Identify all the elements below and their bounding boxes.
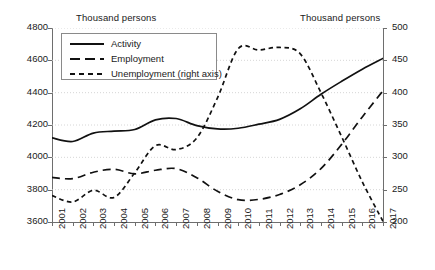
x-axis-tick bbox=[176, 222, 177, 226]
legend-label-activity: Activity bbox=[111, 36, 141, 51]
x-axis-tick bbox=[135, 222, 136, 226]
legend-item-activity: Activity bbox=[62, 36, 218, 51]
x-axis-tick bbox=[197, 222, 198, 226]
left-axis-tick-label: 4200 bbox=[27, 118, 48, 129]
x-axis-tick-label: 2002 bbox=[77, 208, 88, 229]
right-axis-tick-label: 300 bbox=[392, 150, 408, 161]
left-axis-unit-label: Thousand persons bbox=[76, 12, 156, 23]
right-axis-tick bbox=[383, 157, 387, 158]
left-axis-tick bbox=[48, 28, 52, 29]
x-axis-tick bbox=[52, 222, 53, 226]
left-axis-tick bbox=[48, 125, 52, 126]
x-axis-tick-label: 2012 bbox=[284, 208, 295, 229]
x-axis-tick-label: 2017 bbox=[387, 208, 398, 229]
x-axis-tick bbox=[114, 222, 115, 226]
x-axis-tick-label: 2014 bbox=[325, 208, 336, 229]
right-axis-tick-label: 450 bbox=[392, 53, 408, 64]
x-axis-tick bbox=[259, 222, 260, 226]
x-axis-tick bbox=[238, 222, 239, 226]
right-axis-tick bbox=[383, 190, 387, 191]
left-axis-tick-label: 4800 bbox=[27, 21, 48, 32]
right-axis-tick bbox=[383, 93, 387, 94]
x-axis-tick-label: 2016 bbox=[366, 208, 377, 229]
x-axis-tick-label: 2005 bbox=[139, 208, 150, 229]
right-axis-tick bbox=[383, 28, 387, 29]
x-axis-tick bbox=[362, 222, 363, 226]
x-axis-tick bbox=[73, 222, 74, 226]
left-axis-tick-label: 4000 bbox=[27, 150, 48, 161]
x-axis-tick-label: 2003 bbox=[97, 208, 108, 229]
x-axis-tick bbox=[342, 222, 343, 226]
x-axis-tick-label: 2006 bbox=[159, 208, 170, 229]
x-axis-tick bbox=[155, 222, 156, 226]
x-axis-tick-label: 2010 bbox=[242, 208, 253, 229]
left-axis-tick bbox=[48, 157, 52, 158]
x-axis-tick-label: 2001 bbox=[56, 208, 67, 229]
x-axis-tick bbox=[93, 222, 94, 226]
series-line-employment bbox=[52, 91, 383, 201]
legend-label-unemployment: Unemployment (right axis) bbox=[111, 66, 222, 81]
x-axis-tick bbox=[321, 222, 322, 226]
legend-swatch-unemployment bbox=[70, 73, 104, 75]
left-axis-tick-label: 4400 bbox=[27, 86, 48, 97]
legend-item-employment: Employment bbox=[62, 51, 218, 66]
x-axis-tick-label: 2011 bbox=[263, 209, 274, 229]
left-axis-tick-label: 3800 bbox=[27, 183, 48, 194]
x-axis-tick-label: 2015 bbox=[346, 208, 357, 229]
chart-container: Thousand persons Thousand persons Activi… bbox=[0, 0, 435, 270]
right-axis-tick-label: 500 bbox=[392, 21, 408, 32]
left-axis-tick-label: 3600 bbox=[27, 215, 48, 226]
legend-label-employment: Employment bbox=[111, 51, 164, 66]
left-axis-tick bbox=[48, 60, 52, 61]
right-axis-tick-label: 400 bbox=[392, 86, 408, 97]
right-axis-tick bbox=[383, 125, 387, 126]
x-axis-tick-label: 2004 bbox=[118, 208, 129, 229]
x-axis-tick-label: 2008 bbox=[201, 208, 212, 229]
legend-swatch-employment bbox=[70, 58, 104, 60]
x-axis-tick bbox=[280, 222, 281, 226]
legend: Activity Employment Unemployment (right … bbox=[61, 33, 217, 80]
left-axis-tick bbox=[48, 93, 52, 94]
x-axis-tick-label: 2009 bbox=[222, 208, 233, 229]
left-axis-tick bbox=[48, 190, 52, 191]
x-axis-tick-label: 2013 bbox=[304, 208, 315, 229]
right-axis-tick-label: 350 bbox=[392, 118, 408, 129]
x-axis-tick bbox=[218, 222, 219, 226]
x-axis-tick-label: 2007 bbox=[180, 208, 191, 229]
legend-swatch-activity bbox=[70, 43, 104, 45]
left-axis-tick-label: 4600 bbox=[27, 53, 48, 64]
x-axis-tick bbox=[383, 222, 384, 226]
right-axis-unit-label: Thousand persons bbox=[300, 12, 380, 23]
x-axis-tick bbox=[300, 222, 301, 226]
right-axis-tick-label: 250 bbox=[392, 183, 408, 194]
legend-item-unemployment: Unemployment (right axis) bbox=[62, 66, 218, 81]
right-axis-tick bbox=[383, 60, 387, 61]
